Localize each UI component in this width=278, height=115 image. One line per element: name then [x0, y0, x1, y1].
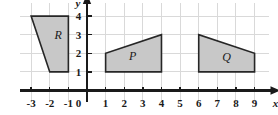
x-tick-label: 4: [159, 97, 165, 109]
coordinate-grid-figure: RPQ-3-2-112345678912340xy: [0, 0, 278, 115]
origin-label: 0: [76, 97, 82, 109]
x-tick-label: 6: [196, 97, 202, 109]
plot-area: RPQ-3-2-112345678912340xy: [0, 0, 278, 115]
x-tick-label: 3: [140, 97, 146, 109]
y-tick-label: 4: [76, 10, 82, 22]
x-tick-label: 9: [252, 97, 258, 109]
shape-r: [31, 16, 68, 72]
x-tick-label: -2: [45, 97, 55, 109]
x-axis-name: x: [272, 97, 278, 109]
x-tick-label: -3: [27, 97, 37, 109]
x-axis-arrow: [270, 86, 278, 94]
x-tick-label: 8: [233, 97, 239, 109]
x-tick-label: 7: [215, 97, 221, 109]
shape-label-p: P: [128, 49, 137, 63]
x-tick-label: 1: [103, 97, 109, 109]
y-axis-name: y: [74, 0, 81, 9]
shape-label-q: Q: [222, 50, 231, 64]
y-axis-arrow: [83, 0, 91, 4]
x-tick-label: 5: [177, 97, 183, 109]
y-tick-label: 1: [76, 66, 82, 78]
y-tick-label: 3: [76, 29, 82, 41]
y-tick-label: 2: [76, 47, 82, 59]
x-tick-label: -1: [64, 97, 73, 109]
shape-label-r: R: [53, 28, 62, 42]
x-tick-label: 2: [121, 97, 127, 109]
